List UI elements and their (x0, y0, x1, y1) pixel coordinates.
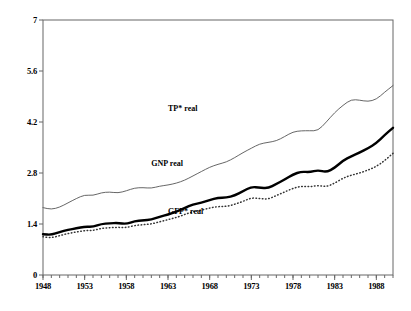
x-tick-label: 1988 (360, 281, 392, 291)
y-tick-label: 2.8 (6, 168, 37, 178)
line-chart-svg (0, 0, 411, 311)
y-tick-label: 7 (6, 15, 37, 25)
y-tick-label: 4.2 (6, 117, 37, 127)
x-tick-label: 1968 (194, 281, 226, 291)
chart-container: 01.42.84.25.67 1948195319581963196819731… (0, 0, 411, 311)
x-tick-label: 1963 (152, 281, 184, 291)
x-tick-label: 1948 (27, 281, 59, 291)
plot-frame (43, 20, 393, 275)
series-label-gnp-real: GNP real (151, 159, 183, 168)
x-tick-label: 1973 (235, 281, 267, 291)
x-tick-label: 1978 (277, 281, 309, 291)
series-label-gfp-real: GFP* real (168, 207, 203, 216)
series-label-tp-real: TP* real (168, 104, 197, 113)
series-lines (43, 86, 393, 238)
x-tick-label: 1958 (110, 281, 142, 291)
y-tick-label: 0 (6, 270, 37, 280)
y-tick-label: 1.4 (6, 219, 37, 229)
y-tick-label: 5.6 (6, 66, 37, 76)
x-tick-label: 1953 (69, 281, 101, 291)
x-tick-label: 1983 (319, 281, 351, 291)
x-axis-ticks (43, 275, 393, 280)
